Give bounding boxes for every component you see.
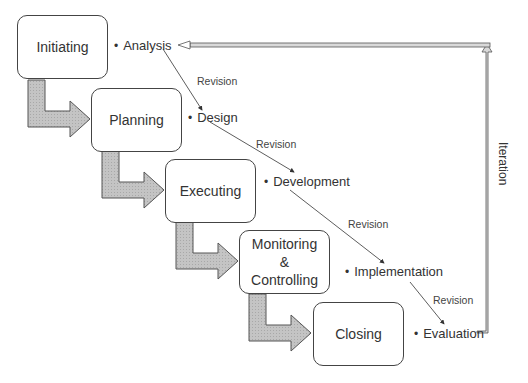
phase-box-planning: Planning (91, 88, 182, 152)
phase-box-executing: Executing (165, 159, 256, 223)
phase-label-closing: Closing (335, 325, 382, 343)
phase-box-initiating: Initiating (17, 15, 108, 79)
activity-implementation: •Implementation (345, 264, 443, 279)
iteration-label: Iteration (496, 142, 510, 185)
activity-label: Analysis (123, 38, 171, 53)
phase-label-initiating: Initiating (36, 38, 88, 56)
activity-label: Design (197, 110, 237, 125)
bullet-icon: • (414, 327, 418, 341)
bullet-icon: • (188, 111, 192, 125)
activity-label: Implementation (354, 264, 443, 279)
phase-label-ampersand: & (280, 253, 289, 271)
phase-label-executing: Executing (180, 182, 241, 200)
phase-label-controlling: Controlling (251, 271, 318, 289)
revision-label-3: Revision (348, 218, 388, 230)
phase-box-closing: Closing (313, 302, 404, 366)
bullet-icon: • (114, 39, 118, 53)
bullet-icon: • (264, 175, 268, 189)
activity-development: •Development (264, 174, 350, 189)
phase-box-monitoring-controlling: Monitoring & Controlling (239, 230, 330, 294)
bullet-icon: • (345, 265, 349, 279)
revision-label-4: Revision (433, 294, 473, 306)
phase-arrow-4 (249, 294, 311, 351)
phase-label-monitoring: Monitoring (252, 235, 317, 253)
revision-label-2: Revision (256, 138, 296, 150)
phase-arrow-2 (102, 151, 164, 208)
phase-label-planning: Planning (109, 111, 164, 129)
activity-label: Evaluation (423, 326, 484, 341)
activity-analysis: •Analysis (114, 38, 172, 53)
activity-evaluation: •Evaluation (414, 326, 484, 341)
activity-label: Development (273, 174, 350, 189)
activity-design: •Design (188, 110, 238, 125)
phase-arrow-1 (28, 80, 90, 137)
phase-arrow-3 (176, 222, 238, 279)
revision-label-1: Revision (197, 75, 237, 87)
